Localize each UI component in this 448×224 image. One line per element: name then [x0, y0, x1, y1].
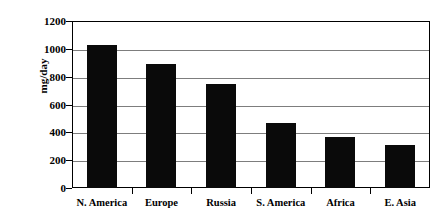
y-tick-label: 200 [20, 155, 66, 166]
bars-layer [72, 21, 430, 188]
y-tick-label: 600 [20, 99, 66, 110]
bar-slot [311, 21, 371, 188]
bar[interactable] [385, 145, 415, 188]
y-tick-label: 0 [20, 183, 66, 194]
bar-slot [251, 21, 311, 188]
bar-slot [72, 21, 132, 188]
bar[interactable] [325, 137, 355, 188]
x-tick-label: Russia [206, 197, 236, 208]
bar-slot [370, 21, 430, 188]
y-tick-label: 400 [20, 127, 66, 138]
x-tick-label: Europe [145, 197, 178, 208]
bar[interactable] [87, 45, 117, 188]
x-tick-label: N. America [76, 197, 127, 208]
x-tick-mark [370, 188, 371, 194]
x-tick-mark [251, 188, 252, 194]
bar-slot [132, 21, 192, 188]
bar[interactable] [266, 123, 296, 188]
bar-chart: mg/day 120010008006004002000 N. AmericaE… [0, 0, 448, 224]
x-tick-mark [311, 188, 312, 194]
y-tick-label: 1000 [20, 43, 66, 54]
x-tick-mark [191, 188, 192, 194]
bar-slot [191, 21, 251, 188]
bar[interactable] [146, 64, 176, 188]
bar[interactable] [206, 84, 236, 188]
x-tick-label: Africa [326, 197, 355, 208]
x-tick-label: E. Asia [384, 197, 416, 208]
y-tick-label: 1200 [20, 16, 66, 27]
y-tick-mark [66, 188, 72, 189]
x-tick-mark [132, 188, 133, 194]
x-tick-label: S. America [256, 197, 305, 208]
y-tick-label: 800 [20, 71, 66, 82]
